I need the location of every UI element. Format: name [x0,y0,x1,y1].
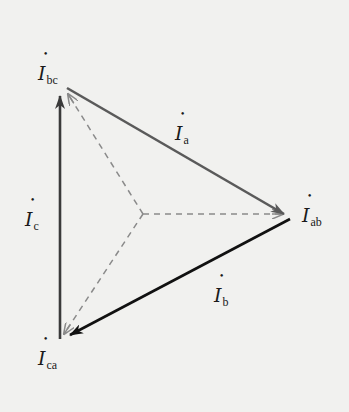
label-symbol: I [214,284,222,306]
label-subscript: b [223,295,229,309]
label-subscript: ca [47,358,58,372]
label-symbol: I [175,122,183,144]
label-symbol: I [38,62,46,84]
label-I-bc: Ibc [38,62,58,84]
phasor-Ibc-dashed [68,94,143,214]
label-subscript: ab [311,215,322,229]
phasor-Ib [70,219,290,335]
label-I-b: Ib [214,284,229,306]
label-subscript: bc [47,73,58,87]
label-subscript: a [184,133,189,147]
label-I-ca: Ica [38,347,57,369]
label-symbol: I [302,204,310,226]
label-subscript: c [34,219,39,233]
phasor-Ia [67,88,284,214]
label-I-ab: Iab [302,204,322,226]
label-symbol: I [25,208,33,230]
label-I-a: Ia [175,122,189,144]
label-I-c: Ic [25,208,39,230]
label-symbol: I [38,347,46,369]
